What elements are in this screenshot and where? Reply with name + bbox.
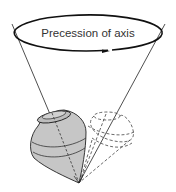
precession-label: Precession of axis (41, 27, 135, 39)
precession-diagram: Precession of axis (0, 0, 176, 192)
ghost-top (80, 112, 134, 182)
spinning-top (31, 109, 86, 183)
